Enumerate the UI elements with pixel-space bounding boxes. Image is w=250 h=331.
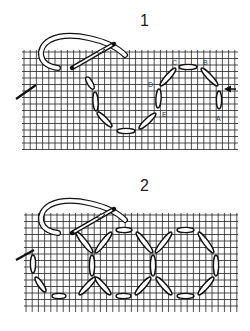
- stitch-group: [30, 227, 218, 298]
- stitch: [177, 227, 194, 232]
- stitch-diagram: [0, 0, 250, 331]
- stitch: [117, 128, 135, 133]
- step-number: 2: [140, 177, 149, 195]
- stitch: [213, 255, 218, 276]
- stitch: [33, 276, 47, 294]
- point-label-c: C: [172, 59, 177, 66]
- step-number: 1: [140, 12, 149, 30]
- needle-tail-icon: [16, 85, 36, 99]
- stitch: [155, 89, 161, 108]
- stitch: [52, 293, 66, 298]
- point-label-e: E: [162, 111, 167, 118]
- stitch: [30, 255, 35, 273]
- arrow-icon: [224, 86, 236, 93]
- panel-1: [16, 36, 238, 150]
- stitch: [92, 92, 98, 111]
- stitch: [116, 227, 132, 232]
- point-label-b: B: [203, 59, 208, 66]
- stitch: [216, 91, 221, 109]
- point-label-a: A: [216, 115, 221, 122]
- illustration-canvas: 1CBDEA2: [0, 0, 250, 331]
- stitch: [177, 293, 194, 298]
- stitch: [150, 255, 155, 276]
- stitch: [179, 64, 197, 69]
- stitch: [116, 293, 131, 298]
- stitch: [89, 255, 94, 276]
- point-label-d: D: [148, 81, 153, 88]
- panel-2: [16, 201, 238, 312]
